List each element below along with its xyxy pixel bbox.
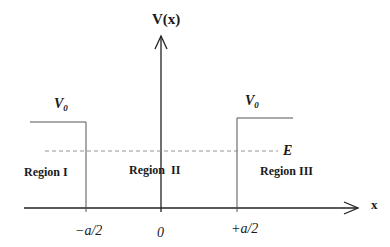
tick-minus-a-half: −a/2 bbox=[75, 224, 102, 238]
tick-plus-a-half: +a/2 bbox=[231, 222, 258, 236]
potential-well-diagram bbox=[0, 0, 390, 247]
tick-zero: 0 bbox=[157, 226, 164, 240]
region-1-label: Region I bbox=[24, 166, 68, 178]
x-axis-label: x bbox=[371, 198, 378, 211]
energy-label: E bbox=[283, 144, 292, 158]
y-axis-label: V(x) bbox=[152, 12, 180, 27]
right-barrier-label: V0 bbox=[245, 94, 259, 110]
region-3-label: Region III bbox=[260, 165, 313, 177]
left-barrier-label: V0 bbox=[54, 97, 68, 113]
region-2-label: Region II bbox=[129, 164, 180, 176]
